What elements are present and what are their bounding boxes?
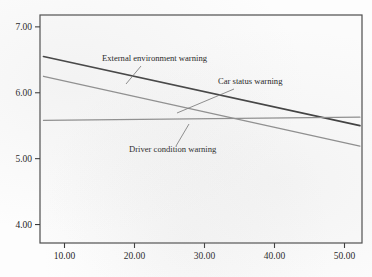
y-tick-label: 6.00 <box>15 88 32 98</box>
annotation-label: External environment warning <box>102 53 208 63</box>
caption-strip <box>0 268 372 277</box>
caption-text <box>0 268 372 277</box>
y-axis: 7.006.005.004.00 <box>15 22 40 230</box>
x-tick-label: 10.00 <box>54 251 76 261</box>
y-tick-label: 7.00 <box>15 22 32 32</box>
x-tick-label: 40.00 <box>264 251 286 261</box>
annotation-label: Car status warning <box>218 76 283 86</box>
plot-area-background <box>40 15 362 243</box>
annotation-label: Driver condition warning <box>129 144 217 154</box>
figure-container: 7.006.005.004.00 10.0020.0030.0040.0050.… <box>0 0 372 277</box>
x-tick-label: 30.00 <box>194 251 216 261</box>
y-tick-label: 5.00 <box>15 154 32 164</box>
x-tick-label: 50.00 <box>334 251 356 261</box>
y-tick-label: 4.00 <box>15 220 32 230</box>
line-chart: 7.006.005.004.00 10.0020.0030.0040.0050.… <box>0 0 372 277</box>
x-tick-label: 20.00 <box>124 251 146 261</box>
x-axis: 10.0020.0030.0040.0050.00 <box>54 243 356 261</box>
